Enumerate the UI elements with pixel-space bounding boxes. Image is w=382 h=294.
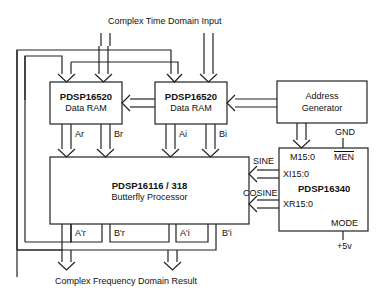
pin-xi: XI15:0	[283, 170, 309, 179]
address-generator-box	[277, 81, 367, 123]
butterfly-part: PDSP16116 / 318	[50, 181, 249, 191]
address-gen-line2: Generator	[277, 104, 367, 113]
pin-m: M15:0	[290, 153, 315, 162]
signal-ar: Ar	[75, 130, 84, 139]
cosine-label: COSINE	[243, 189, 278, 198]
signal-br-out: B'r	[114, 229, 125, 238]
ram-right-part: PDSP16520	[155, 92, 227, 102]
signal-ai: Ai	[179, 130, 187, 139]
pin-mode: MODE	[331, 219, 358, 228]
signal-ar-out: A'r	[75, 229, 86, 238]
vcc-label: +5v	[337, 242, 352, 251]
diagram-canvas	[0, 0, 382, 294]
input-label: Complex Time Domain Input	[108, 17, 222, 26]
sine-label: SINE	[253, 157, 274, 166]
nco-part: PDSP16340	[298, 184, 350, 194]
butterfly-name: Butterfly Processor	[50, 193, 249, 202]
ram-left-part: PDSP16520	[50, 92, 122, 102]
ram-left-name: Data RAM	[50, 104, 122, 113]
pin-men: MEN	[334, 153, 354, 162]
pin-xr: XR15:0	[283, 200, 313, 209]
signal-ai-out: A'i	[180, 229, 190, 238]
signal-bi-out: B'i	[222, 229, 232, 238]
address-gen-line1: Address	[277, 92, 367, 101]
output-label: Complex Frequency Domain Result	[55, 277, 197, 286]
ram-right-name: Data RAM	[155, 104, 227, 113]
signal-br: Br	[114, 130, 123, 139]
gnd-label: GND	[335, 128, 355, 137]
signal-bi: Bi	[219, 130, 227, 139]
